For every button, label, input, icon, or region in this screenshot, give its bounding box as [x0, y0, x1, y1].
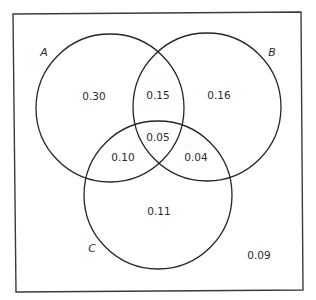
region-bc-only: 0.04	[184, 151, 208, 163]
set-c-circle	[84, 121, 232, 269]
region-ac-only: 0.10	[111, 151, 134, 163]
region-c-only: 0.11	[147, 205, 170, 217]
region-ab-only: 0.15	[146, 89, 169, 101]
region-a-only: 0.30	[82, 90, 105, 102]
set-a-circle	[36, 34, 184, 182]
region-outside: 0.09	[247, 249, 270, 261]
region-b-only: 0.16	[207, 89, 231, 101]
set-b-label: B	[268, 46, 276, 59]
set-c-label: C	[88, 242, 96, 255]
region-abc: 0.05	[146, 131, 169, 143]
venn-diagram: A B C 0.30 0.15 0.16 0.05 0.10 0.04 0.11…	[0, 0, 316, 300]
set-a-label: A	[39, 46, 48, 59]
